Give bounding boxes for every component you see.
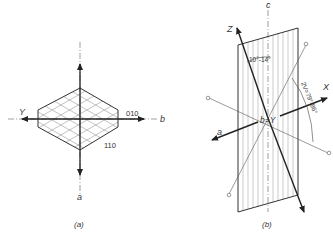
label-a: a [217, 127, 222, 137]
optic-axis-end-icon [304, 42, 308, 46]
optic-axis-end-icon [327, 151, 331, 155]
label-extinction-angle: 10°-14° [249, 56, 271, 63]
label-b: b [160, 114, 165, 124]
diagram-canvas: Y b a 010 110 (a) [0, 0, 333, 233]
optic-axis-end-icon [206, 96, 210, 100]
figure-a: Y b a 010 110 (a) [0, 10, 165, 229]
label-optic-angle: 2V=79°-86° [300, 81, 319, 115]
label-a: a [77, 192, 82, 202]
label-x: X [322, 82, 330, 92]
label-z: Z [226, 24, 233, 34]
caption-b: (b) [262, 220, 272, 229]
caption-a: (a) [74, 220, 84, 229]
optic-axis-end-icon [227, 193, 231, 197]
figure-b: c Z X a b=Y 10°-14° 2V=79°-86° (b) [206, 0, 331, 233]
label-c: c [266, 0, 271, 10]
arrow-z [237, 28, 268, 118]
label-face-110: 110 [104, 141, 116, 150]
arrow-x [280, 98, 327, 116]
label-b-equals-y: b=Y [260, 115, 277, 125]
label-face-010: 010 [126, 109, 139, 118]
label-gamma: Y [19, 107, 26, 117]
